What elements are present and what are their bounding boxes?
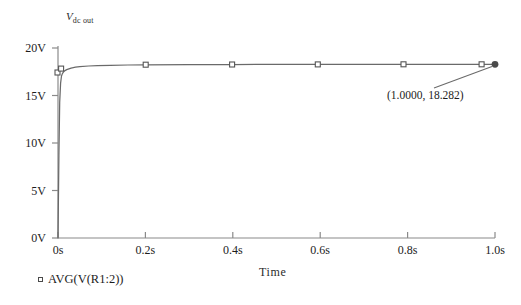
y-axis-title-subscript: dc out xyxy=(73,16,94,25)
x-axis-title: Time xyxy=(259,265,286,280)
x-tick-label-1p0s: 1.0s xyxy=(473,243,517,258)
x-tick-label-0p2s: 0.2s xyxy=(123,243,167,258)
data-point-marker xyxy=(59,66,64,71)
y-axis-title-main: V xyxy=(66,10,73,22)
y-tick-label-10v: 10V xyxy=(12,136,46,151)
x-tick-label-0p6s: 0.6s xyxy=(298,243,342,258)
data-point-marker xyxy=(315,62,320,67)
x-tick-label-0p8s: 0.8s xyxy=(386,243,430,258)
x-tick-label-0s: 0s xyxy=(36,243,80,258)
data-point-marker xyxy=(230,62,235,67)
chart-canvas xyxy=(0,0,521,305)
data-point-marker xyxy=(143,62,148,67)
endpoint-dot xyxy=(492,61,499,68)
legend-marker-icon xyxy=(38,277,43,282)
data-point-annotation: (1.0000, 18.282) xyxy=(387,89,464,101)
y-axis-ticks xyxy=(52,48,58,238)
x-axis-ticks xyxy=(58,232,495,238)
data-point-marker xyxy=(479,62,484,67)
y-tick-label-15v: 15V xyxy=(12,89,46,104)
y-tick-label-5v: 5V xyxy=(12,184,46,199)
y-tick-label-20v: 20V xyxy=(12,41,46,56)
x-tick-label-0p4s: 0.4s xyxy=(211,243,255,258)
probe-plot-screenshot: Vdc out 20V 15V 10V 5V 0V 0s 0.2s 0.4s 0… xyxy=(0,0,521,305)
legend: AVG(V(R1:2)) xyxy=(38,272,123,287)
legend-series-label[interactable]: AVG(V(R1:2)) xyxy=(48,272,123,287)
data-point-marker xyxy=(401,62,406,67)
annotation-leader-line xyxy=(434,67,492,89)
y-axis-title: Vdc out xyxy=(66,10,94,25)
